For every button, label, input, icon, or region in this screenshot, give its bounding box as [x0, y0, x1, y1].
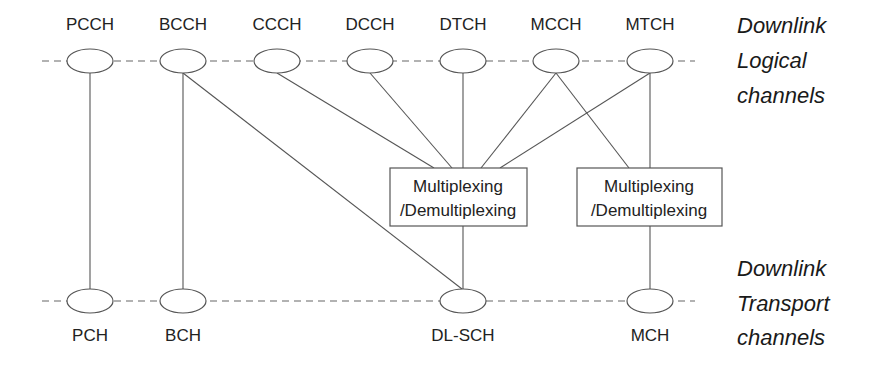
node-mcch — [533, 49, 579, 73]
node-dlsch — [440, 289, 486, 313]
label-pcch: PCCH — [66, 15, 114, 34]
mux-box-line1: Multiplexing — [604, 177, 694, 196]
node-dtch — [440, 49, 486, 73]
logical-title-line3: channels — [737, 83, 825, 108]
label-mch: MCH — [631, 326, 670, 345]
node-ccch — [254, 49, 300, 73]
link-mcch-mux2 — [556, 73, 629, 168]
label-ccch: CCCH — [252, 15, 301, 34]
mux-box-dlsch: Multiplexing /Demultiplexing — [390, 168, 527, 226]
link-mcch-mux1 — [481, 73, 556, 168]
node-pch — [67, 289, 113, 313]
transport-title-line1: Downlink — [737, 256, 827, 281]
logical-title-line2: Logical — [737, 48, 808, 73]
transport-channel-labels: PCH BCH DL-SCH MCH — [72, 326, 669, 345]
label-dlsch: DL-SCH — [431, 326, 494, 345]
label-mtch: MTCH — [625, 15, 674, 34]
connections — [90, 73, 650, 289]
transport-layer-title: Downlink Transport channels — [737, 256, 830, 350]
logical-layer-title: Downlink Logical channels — [737, 13, 827, 108]
node-bch — [160, 289, 206, 313]
label-bch: BCH — [165, 326, 201, 345]
label-dcch: DCCH — [345, 15, 394, 34]
mux-box-line2: /Demultiplexing — [400, 201, 516, 220]
label-dtch: DTCH — [439, 15, 486, 34]
mux-box-mch: Multiplexing /Demultiplexing — [577, 168, 722, 226]
mux-box-line2: /Demultiplexing — [591, 201, 707, 220]
node-dcch — [347, 49, 393, 73]
node-pcch — [67, 49, 113, 73]
logical-channel-labels: PCCH BCCH CCCH DCCH DTCH MCCH MTCH — [66, 15, 675, 34]
logical-title-line1: Downlink — [737, 13, 827, 38]
transport-title-line2: Transport — [737, 291, 830, 316]
transport-title-line3: channels — [737, 325, 825, 350]
mux-box-line1: Multiplexing — [413, 177, 503, 196]
node-mtch — [627, 49, 673, 73]
channel-mapping-diagram: Multiplexing /Demultiplexing Multiplexin… — [0, 0, 885, 370]
label-bcch: BCCH — [159, 15, 207, 34]
label-mcch: MCCH — [531, 15, 582, 34]
node-bcch — [160, 49, 206, 73]
node-mch — [627, 289, 673, 313]
label-pch: PCH — [72, 326, 108, 345]
link-mtch-mux1 — [500, 73, 650, 168]
